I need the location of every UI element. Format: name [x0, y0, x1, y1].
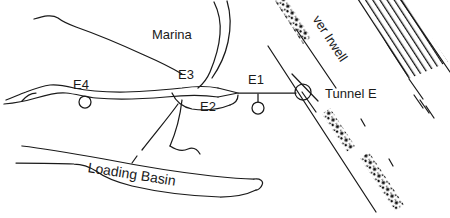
river-tick-a	[361, 119, 365, 126]
link-diagonal-south-west	[142, 104, 178, 150]
link-diagonal-tick	[132, 156, 137, 163]
river-stipple-band-upper	[275, 0, 311, 44]
map-drawing	[0, 0, 450, 218]
marina-east-arm	[198, 2, 220, 88]
river-stipple-band-lower	[360, 152, 404, 211]
node-marker-e4	[79, 96, 91, 108]
label-node-e3: E3	[178, 68, 194, 81]
marina-north-bank	[34, 16, 182, 74]
map-figure: Marina E4 E3 E1 E2 Tunnel E ver Irwell L…	[0, 0, 450, 218]
river-near-bank-line	[268, 46, 376, 212]
channel-junction-wedge	[218, 88, 238, 97]
label-marina: Marina	[152, 28, 192, 41]
label-node-e2: E2	[200, 100, 216, 113]
link-basin-elbow	[170, 146, 200, 154]
loading-basin-east-end	[254, 179, 263, 190]
node-marker-e1	[252, 102, 264, 114]
river-stipple-band-middle	[322, 108, 355, 152]
channel-south-edge	[4, 93, 218, 104]
marina-east-arm-inner	[212, 1, 230, 78]
river-tick-b	[389, 159, 393, 166]
label-tunnel-e: Tunnel E	[325, 87, 377, 100]
embankment-lower-hatch	[414, 95, 434, 118]
label-node-e4: E4	[73, 78, 89, 91]
label-node-e1: E1	[248, 73, 264, 86]
basin-lobe-e2-neck	[230, 95, 238, 105]
embankment-lower-edge	[409, 79, 423, 99]
